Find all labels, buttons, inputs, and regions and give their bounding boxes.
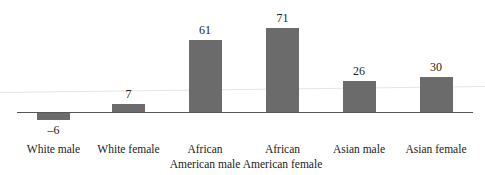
bar-value-label: 71	[263, 11, 303, 26]
bar	[37, 113, 70, 120]
bar-value-label: 7	[109, 87, 149, 102]
bar-value-label: 61	[185, 23, 225, 38]
bar	[112, 104, 145, 112]
x-axis-baseline	[17, 112, 473, 113]
bar	[420, 77, 453, 112]
bar-value-label: 30	[416, 60, 456, 75]
category-label-line: Asian female	[381, 142, 485, 157]
bar-chart: –6White male7White female61AfricanAmeric…	[0, 0, 485, 175]
bar-value-label: 26	[339, 64, 379, 79]
bar	[266, 28, 299, 112]
bar	[343, 81, 376, 112]
category-label-line: American female	[228, 157, 338, 172]
bar-value-label: –6	[34, 123, 74, 138]
category-label: Asian female	[381, 142, 485, 157]
background-faint-line	[0, 86, 485, 93]
bar	[189, 40, 222, 112]
